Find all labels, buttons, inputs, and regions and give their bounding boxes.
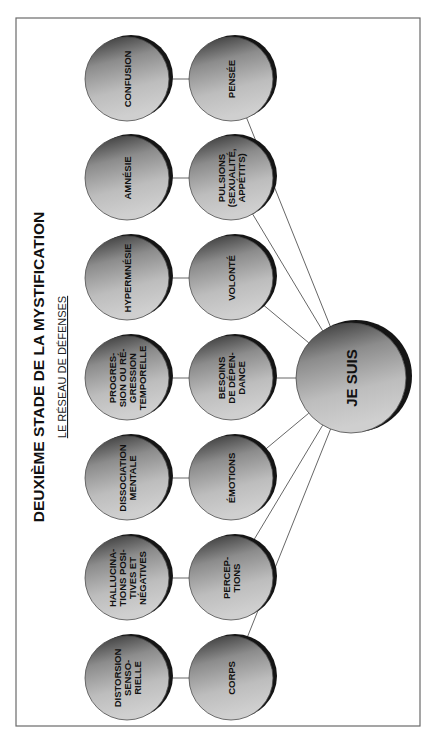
center-node-label: JE SUIS (343, 349, 360, 407)
node-label-line: CORPS (226, 660, 237, 694)
node-label-line: TIONS (231, 563, 242, 593)
defense-node: HALLUCINA-TIONS POSI-TIVES ETNÉGATIVES (85, 534, 173, 620)
faculty-node: PULSIONS(SEXUALITÉ,APPÉTITS) (189, 134, 277, 220)
node-label-line: TEMPORELLE (137, 345, 148, 410)
defense-node: AMNÉSIE (85, 134, 173, 220)
faculty-node: VOLONTÉ (189, 234, 277, 320)
diagram-subtitle: LE RÉSEAU DE DÉFENSES (56, 296, 68, 438)
defense-node: PROGRES-SION OU RÉ-GRESSIONTEMPORELLE (85, 334, 173, 420)
node-label-line: CONFUSION (122, 51, 133, 108)
defense-node: HYPERMNÉSIE (85, 234, 173, 320)
node-label-line: PENSÉE (226, 59, 237, 98)
diagram-title: DEUXIÈME STADE DE LA MYSTIFICATION (30, 212, 47, 523)
faculty-node: PENSÉE (189, 35, 277, 121)
faculty-node: BESOINSDE DÉPEN-DANCE (189, 334, 277, 420)
defense-node: DISSOCIATIONMENTALE (85, 434, 173, 520)
node-label-line: HYPERMNÉSIE (122, 243, 133, 312)
faculty-node: CORPS (189, 634, 277, 720)
center-node: JE SUIS (296, 320, 412, 433)
node-label-line: NÉGATIVES (137, 550, 148, 605)
node-label-line: APPÉTITS) (236, 153, 247, 202)
node-label-line: ÉMOTIONS (226, 452, 237, 503)
nodes-layer: CONFUSIONPENSÉEAMNÉSIEPULSIONS(SEXUALITÉ… (85, 35, 277, 720)
diagram-canvas: CONFUSIONPENSÉEAMNÉSIEPULSIONS(SEXUALITÉ… (0, 0, 437, 741)
node-label-line: RIELLE (132, 661, 143, 695)
node-label-line: DANCE (236, 360, 247, 394)
faculty-node: PERCEP-TIONS (189, 534, 277, 620)
node-label-line: VOLONTÉ (226, 254, 237, 300)
defense-node: CONFUSION (85, 35, 173, 121)
defense-node: DISTORSIONSENSO-RIELLE (85, 634, 173, 720)
node-label-line: AMNÉSIE (122, 156, 133, 200)
node-label-line: MENTALE (127, 455, 138, 501)
faculty-node: ÉMOTIONS (189, 434, 277, 520)
